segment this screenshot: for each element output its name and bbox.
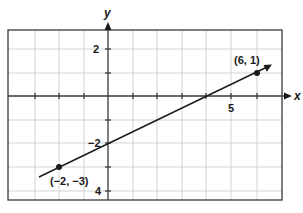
- y-tick-label-4: 4: [95, 185, 102, 197]
- point-neg2-neg3: [56, 164, 62, 170]
- y-tick-label-neg2: −2: [88, 137, 101, 149]
- y-axis-label: y: [103, 6, 112, 20]
- x-axis-label: x: [293, 89, 302, 103]
- y-axis: [105, 22, 112, 200]
- coordinate-plane: y x 2 −2 4 5 (−2, −3) (6, 1): [0, 0, 303, 213]
- data-line: [39, 65, 272, 178]
- point-6-1: [254, 70, 260, 76]
- x-tick-label-5: 5: [228, 102, 234, 114]
- y-tick-label-2: 2: [93, 43, 99, 55]
- y-axis-arrow-icon: [105, 22, 112, 30]
- x-axis-arrow-icon: [284, 93, 292, 100]
- point-label-6-1: (6, 1): [234, 54, 260, 66]
- x-axis: [8, 93, 292, 100]
- point-label-neg2-neg3: (−2, −3): [50, 175, 89, 187]
